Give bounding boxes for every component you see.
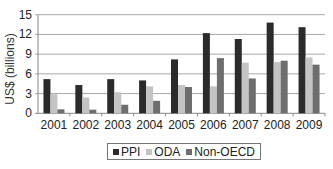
- bar-ppi-2005: [171, 59, 178, 113]
- bar-ppi-2007: [235, 39, 242, 113]
- bar-chart: US$ (billions) 03691215 2001200220032004…: [0, 0, 333, 169]
- legend-item-ppi: PPI: [113, 145, 140, 159]
- bar-oda-2005: [178, 85, 185, 113]
- bar-non-oecd-2007: [249, 78, 256, 113]
- bar-oda-2009: [306, 57, 313, 113]
- bar-oda-2007: [242, 63, 249, 114]
- bar-non-oecd-2004: [153, 101, 160, 113]
- bar-non-oecd-2003: [121, 105, 128, 114]
- x-tick-label: 2009: [293, 118, 325, 132]
- bar-non-oecd-2006: [217, 58, 224, 113]
- bar-ppi-2002: [75, 85, 82, 113]
- x-tick-label: 2008: [261, 118, 293, 132]
- bar-oda-2001: [50, 94, 57, 113]
- legend: PPI ODA Non-OECD: [107, 143, 261, 160]
- bar-ppi-2001: [43, 79, 50, 113]
- x-tick-label: 2002: [70, 118, 102, 132]
- bar-ppi-2008: [267, 23, 274, 114]
- bar-non-oecd-2001: [57, 109, 64, 113]
- bar-non-oecd-2005: [185, 87, 192, 113]
- legend-swatch-ppi: [113, 149, 119, 155]
- legend-label-ppi: PPI: [121, 145, 140, 159]
- bar-ppi-2006: [203, 33, 210, 113]
- x-tick-label: 2006: [197, 118, 229, 132]
- x-tick-label: 2003: [102, 118, 134, 132]
- legend-item-non-oecd: Non-OECD: [186, 145, 255, 159]
- bar-ppi-2003: [107, 79, 114, 113]
- bar-ppi-2009: [299, 27, 306, 113]
- legend-swatch-oda: [146, 149, 152, 155]
- y-tick-label: 15: [10, 9, 32, 21]
- bar-ppi-2004: [139, 80, 146, 113]
- x-tick-label: 2004: [134, 118, 166, 132]
- y-tick-label: 0: [10, 107, 32, 119]
- bar-oda-2006: [210, 86, 217, 113]
- legend-item-oda: ODA: [146, 145, 180, 159]
- bar-oda-2003: [114, 92, 121, 113]
- bar-non-oecd-2002: [89, 110, 96, 114]
- y-tick-label: 12: [10, 28, 32, 40]
- legend-swatch-non-oecd: [186, 149, 192, 155]
- x-tick-label: 2001: [38, 118, 70, 132]
- y-tick-label: 9: [10, 48, 32, 60]
- y-tick-label: 6: [10, 68, 32, 80]
- bar-non-oecd-2009: [313, 65, 320, 114]
- bar-oda-2008: [274, 62, 281, 113]
- legend-label-oda: ODA: [154, 145, 180, 159]
- x-tick-label: 2005: [166, 118, 198, 132]
- bar-oda-2002: [82, 98, 89, 114]
- bar-oda-2004: [146, 86, 153, 113]
- y-tick-label: 3: [10, 88, 32, 100]
- bar-non-oecd-2008: [281, 61, 288, 114]
- x-tick-label: 2007: [229, 118, 261, 132]
- legend-label-non-oecd: Non-OECD: [194, 145, 255, 159]
